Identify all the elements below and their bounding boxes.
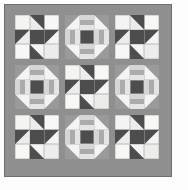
churn-rail-bottom (80, 44, 95, 59)
churn-rail-left (115, 80, 130, 95)
churn-rail-top (30, 65, 45, 80)
rail-stripe (154, 80, 159, 95)
churn-rail-left (65, 30, 80, 45)
churn-rail-right (94, 130, 109, 145)
churn-rail-left (15, 80, 30, 95)
churn-rail-right (144, 80, 159, 95)
block-star-bottom-left[interactable] (15, 115, 59, 159)
block-star-middle-center[interactable] (65, 65, 109, 109)
rail-stripe (104, 130, 109, 145)
quilt-canvas (0, 0, 188, 190)
star-points (65, 65, 109, 109)
churn-center-square (30, 80, 45, 95)
churn-rail-left (65, 130, 80, 145)
rail-stripe (54, 80, 59, 95)
churn-rail-top (80, 115, 95, 130)
star-points (115, 15, 159, 59)
rail-stripe (30, 104, 45, 109)
star-points (15, 115, 59, 159)
churn-rail-bottom (130, 94, 145, 109)
block-churn-middle-left[interactable] (15, 65, 59, 109)
churn-rail-bottom (30, 94, 45, 109)
churn-center-square (130, 80, 145, 95)
block-star-top-left[interactable] (15, 15, 59, 59)
block-churn-bottom-center[interactable] (65, 115, 109, 159)
churn-rail-top (130, 65, 145, 80)
churn-center-square (80, 130, 95, 145)
block-star-bottom-right[interactable] (115, 115, 159, 159)
rail-stripe (80, 154, 95, 159)
block-star-top-right[interactable] (115, 15, 159, 59)
churn-rail-bottom (80, 144, 95, 159)
block-churn-top-center[interactable] (65, 15, 109, 59)
churn-rail-right (44, 80, 59, 95)
rail-stripe (130, 104, 145, 109)
block-churn-middle-right[interactable] (115, 65, 159, 109)
rail-stripe (80, 54, 95, 59)
star-points (15, 15, 59, 59)
churn-center-square (80, 30, 95, 45)
star-points (115, 115, 159, 159)
churn-rail-top (80, 15, 95, 30)
quilt-panel (4, 4, 172, 177)
rail-stripe (104, 30, 109, 45)
churn-rail-right (94, 30, 109, 45)
